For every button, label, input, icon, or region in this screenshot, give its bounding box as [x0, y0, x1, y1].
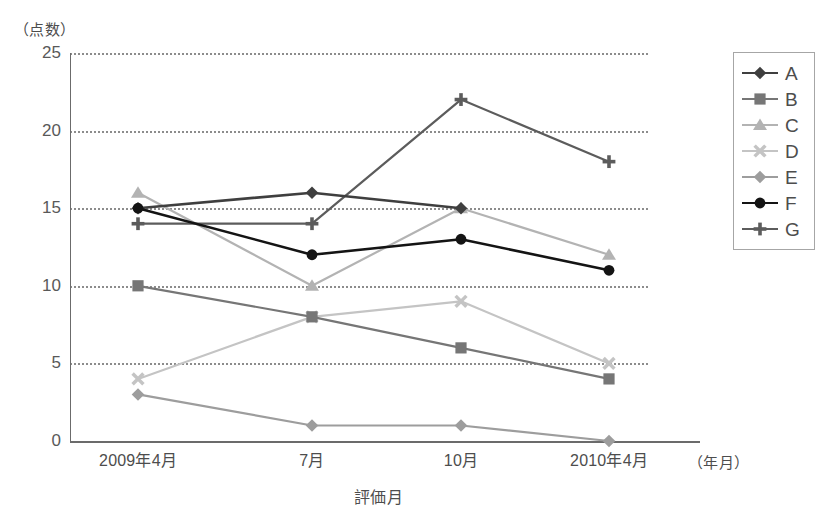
series-line-G	[138, 100, 609, 224]
legend-item-B[interactable]: B	[734, 86, 814, 112]
data-point-B	[603, 373, 614, 384]
legend-label: B	[785, 90, 798, 109]
data-point-C	[131, 186, 145, 197]
legend-marker-square-icon	[742, 89, 778, 109]
legend-item-G[interactable]: G	[734, 216, 814, 242]
legend-label: D	[785, 142, 799, 161]
data-point-D	[604, 358, 615, 369]
legend-marker-diamond-icon	[742, 167, 778, 187]
series-B	[132, 280, 614, 384]
series-line-D	[138, 301, 609, 379]
legend-marker-glyph	[742, 167, 778, 187]
legend-marker-glyph	[742, 89, 778, 109]
legend-marker-glyph	[742, 141, 778, 161]
data-point-F	[307, 249, 318, 260]
data-point-F	[133, 203, 144, 214]
legend-marker-glyph	[742, 63, 778, 83]
series-line-C	[138, 193, 609, 286]
data-point-B	[455, 342, 466, 353]
line-chart: （点数） （年月） 0510152025 2009年4月7月10月2010年4月…	[0, 0, 827, 524]
series-layer	[0, 0, 827, 524]
series-E	[132, 388, 616, 447]
series-line-B	[138, 286, 609, 379]
legend-item-C[interactable]: C	[734, 112, 814, 138]
legend-marker-x-icon	[742, 141, 778, 161]
legend-item-E[interactable]: E	[734, 164, 814, 190]
x-axis-title: 評価月	[0, 484, 827, 508]
data-point-B	[306, 311, 317, 322]
series-G	[132, 93, 616, 230]
data-point-A	[306, 186, 319, 199]
legend-item-F[interactable]: F	[734, 190, 814, 216]
x-axis-title-text: 評価月	[354, 484, 404, 508]
legend-label: C	[785, 116, 799, 135]
data-point-G	[132, 217, 145, 230]
legend-marker-diamond-icon	[742, 63, 778, 83]
legend-label: G	[785, 220, 800, 239]
data-point-E	[603, 435, 616, 448]
series-line-E	[138, 394, 609, 441]
legend-item-A[interactable]: A	[734, 60, 814, 86]
data-point-E	[132, 388, 145, 401]
legend-label: E	[785, 168, 798, 187]
legend-marker-glyph	[742, 115, 778, 135]
legend-label: F	[785, 194, 797, 213]
data-point-F	[456, 234, 467, 245]
series-D	[133, 296, 615, 384]
legend-marker-plus-icon	[742, 219, 778, 239]
data-point-G	[603, 155, 616, 168]
data-point-B	[132, 280, 143, 291]
legend: ABCDEFG	[733, 52, 815, 250]
legend-item-D[interactable]: D	[734, 138, 814, 164]
data-point-C	[305, 279, 319, 290]
legend-marker-triangle-icon	[742, 115, 778, 135]
series-F	[133, 203, 615, 276]
legend-marker-glyph	[742, 193, 778, 213]
data-point-E	[306, 419, 319, 432]
series-A	[132, 186, 468, 214]
series-line-F	[138, 208, 609, 270]
legend-marker-circle-icon	[742, 193, 778, 213]
series-line-A	[138, 193, 461, 209]
legend-marker-glyph	[742, 219, 778, 239]
data-point-E	[455, 419, 468, 432]
data-point-F	[604, 265, 615, 276]
legend-label: A	[785, 64, 798, 83]
data-point-D	[133, 374, 144, 385]
